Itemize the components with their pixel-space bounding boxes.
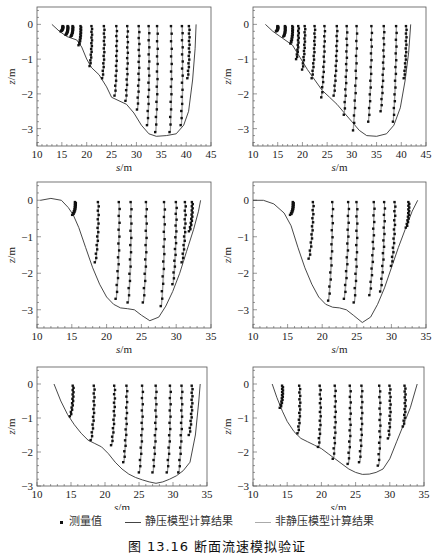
measured-point bbox=[125, 395, 127, 397]
measured-point bbox=[330, 264, 332, 266]
measured-point bbox=[331, 201, 333, 203]
measured-point bbox=[346, 57, 348, 59]
measured-point bbox=[180, 409, 182, 411]
x-tick-label: 30 bbox=[346, 148, 358, 160]
measured-point bbox=[298, 429, 300, 431]
measured-point bbox=[323, 35, 325, 37]
measured-point bbox=[176, 207, 178, 209]
measured-point bbox=[403, 70, 405, 72]
measured-point bbox=[170, 85, 172, 87]
measured-point bbox=[117, 263, 119, 265]
measured-point bbox=[354, 107, 356, 109]
measured-point bbox=[124, 445, 126, 447]
measured-point bbox=[113, 94, 115, 96]
measured-point bbox=[92, 419, 94, 421]
measured-point bbox=[298, 32, 300, 34]
measured-point bbox=[297, 41, 299, 43]
measured-point bbox=[394, 100, 396, 102]
measured-point bbox=[393, 242, 395, 244]
x-tick-label: 10 bbox=[248, 148, 260, 160]
measured-point bbox=[318, 437, 320, 439]
measured-point bbox=[177, 471, 179, 473]
measured-point bbox=[162, 245, 164, 247]
x-tick-label: 15 bbox=[66, 488, 78, 500]
measured-point bbox=[115, 80, 117, 82]
measured-point bbox=[148, 32, 150, 34]
measured-point bbox=[349, 435, 351, 437]
measured-point bbox=[355, 25, 357, 27]
measured-point bbox=[387, 437, 389, 439]
measured-point bbox=[371, 274, 373, 276]
y-tick-label: 0 bbox=[28, 194, 34, 206]
measured-point bbox=[96, 227, 98, 229]
measured-point bbox=[389, 418, 391, 420]
measured-point bbox=[181, 39, 183, 41]
measured-point bbox=[391, 260, 393, 262]
measured-point bbox=[360, 395, 362, 397]
measured-point bbox=[170, 55, 172, 57]
y-axis-label: z/m bbox=[5, 418, 17, 435]
x-tick-label: 30 bbox=[168, 488, 180, 500]
measured-point bbox=[112, 427, 114, 429]
measured-point bbox=[297, 39, 299, 41]
measured-point bbox=[188, 32, 190, 34]
measured-point bbox=[313, 47, 315, 49]
measured-point bbox=[170, 78, 172, 80]
measured-point bbox=[90, 36, 92, 38]
measured-point bbox=[393, 233, 395, 235]
measured-point bbox=[349, 418, 351, 420]
measured-point bbox=[348, 222, 350, 224]
measured-point bbox=[71, 389, 73, 391]
measured-point bbox=[72, 387, 74, 389]
measured-point bbox=[347, 201, 349, 203]
measured-point bbox=[143, 287, 145, 289]
measured-point bbox=[327, 299, 329, 301]
panel-4: 1015202530350−1−2−3s/mz/m bbox=[221, 182, 432, 355]
measured-point bbox=[380, 104, 382, 106]
measured-point bbox=[161, 290, 163, 292]
measured-point bbox=[138, 471, 140, 473]
measured-point bbox=[102, 66, 104, 68]
measured-point bbox=[319, 419, 321, 421]
measured-point bbox=[116, 30, 118, 32]
measured-point bbox=[138, 55, 140, 57]
measured-point bbox=[185, 205, 187, 207]
measured-point bbox=[355, 62, 357, 64]
measured-point bbox=[322, 81, 324, 83]
measured-point bbox=[174, 265, 176, 267]
measured-point bbox=[404, 387, 406, 389]
x-tick-label: 25 bbox=[136, 330, 148, 342]
measured-point bbox=[128, 273, 130, 275]
measured-point bbox=[345, 76, 347, 78]
measured-point bbox=[355, 55, 357, 57]
measured-point bbox=[187, 73, 189, 75]
measured-point bbox=[379, 413, 381, 415]
measured-point bbox=[156, 40, 158, 42]
legend-item-hydrostatic: 静压模型计算结果 bbox=[125, 512, 233, 528]
measured-point bbox=[299, 402, 301, 404]
measured-point bbox=[404, 405, 406, 407]
measured-point bbox=[336, 40, 338, 42]
measured-point bbox=[143, 294, 145, 296]
measured-point bbox=[114, 298, 116, 300]
measured-point bbox=[164, 223, 166, 225]
measured-point bbox=[156, 108, 158, 110]
x-tick-label: 35 bbox=[202, 488, 214, 500]
measured-point bbox=[303, 59, 305, 61]
measured-point bbox=[353, 122, 355, 124]
measured-point bbox=[126, 36, 128, 38]
measured-point bbox=[126, 390, 128, 392]
measured-point bbox=[319, 389, 321, 391]
measured-point bbox=[184, 231, 186, 233]
measured-point bbox=[180, 117, 182, 119]
measured-point bbox=[175, 201, 177, 203]
x-tick-label: 10 bbox=[32, 330, 44, 342]
measured-point bbox=[171, 63, 173, 65]
y-tick-label: 0 bbox=[28, 18, 34, 30]
measured-point bbox=[125, 434, 127, 436]
measured-point bbox=[299, 388, 301, 390]
measured-point bbox=[127, 30, 129, 32]
measured-point bbox=[370, 39, 372, 41]
measured-point bbox=[334, 390, 336, 392]
x-tick-label: 35 bbox=[206, 330, 218, 342]
